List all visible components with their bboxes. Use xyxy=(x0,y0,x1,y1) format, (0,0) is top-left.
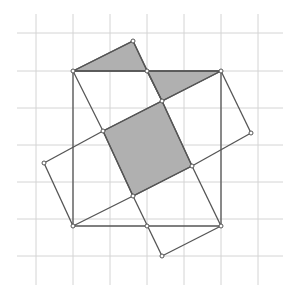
vertex-point xyxy=(219,224,223,228)
edge-segment xyxy=(192,166,221,226)
vertex-point xyxy=(145,224,149,228)
vertex-point xyxy=(71,224,75,228)
vertex-point xyxy=(160,99,164,103)
edge-segment xyxy=(162,226,221,256)
vertex-point xyxy=(42,161,46,165)
vertex-point xyxy=(160,254,164,258)
vertex-point xyxy=(219,69,223,73)
edge-segment xyxy=(73,196,133,226)
vertex-point xyxy=(131,39,135,43)
edge-segment xyxy=(221,71,251,133)
edge-segment xyxy=(44,163,73,226)
vertex-point xyxy=(190,164,194,168)
vertex-point xyxy=(249,131,253,135)
vertex-point xyxy=(71,69,75,73)
vertex-point xyxy=(131,194,135,198)
vertex-point xyxy=(101,129,105,133)
vertex-point xyxy=(145,69,149,73)
geometry-diagram xyxy=(0,0,301,299)
edge-segment xyxy=(73,71,103,131)
